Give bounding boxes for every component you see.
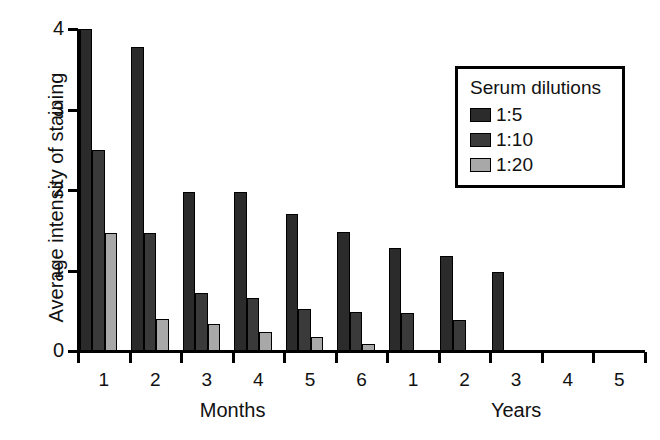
legend-item: 1:10 (470, 127, 612, 152)
x-axis-tick (283, 352, 286, 363)
bar (183, 192, 196, 351)
x-axis-tick (180, 352, 183, 363)
bar (492, 272, 505, 351)
legend-items: 1:51:101:20 (470, 102, 612, 177)
bar (259, 332, 272, 351)
legend-item-label: 1:10 (496, 129, 533, 151)
legend: Serum dilutions 1:51:101:20 (455, 66, 625, 188)
x-axis-tick (129, 352, 132, 363)
x-axis-tick-label: 1 (393, 369, 433, 391)
x-axis-tick (438, 352, 441, 363)
bar (389, 248, 402, 351)
bar (453, 320, 466, 351)
bar (298, 309, 311, 351)
x-axis-tick-label: 5 (599, 369, 639, 391)
legend-item-label: 1:5 (496, 104, 522, 126)
legend-swatch (470, 133, 491, 147)
bar (350, 312, 363, 351)
legend-swatch (470, 158, 491, 172)
legend-item: 1:20 (470, 152, 612, 177)
x-axis-tick-label: 2 (445, 369, 485, 391)
x-axis-group-caption-years: Years (416, 398, 616, 422)
legend-title: Serum dilutions (470, 75, 612, 101)
x-axis-tick-label: 6 (342, 369, 382, 391)
x-axis-tick (386, 352, 389, 363)
bar (105, 233, 118, 351)
x-axis-tick (77, 352, 80, 363)
legend-item: 1:5 (470, 102, 612, 127)
bar (80, 29, 93, 351)
bar (362, 344, 375, 351)
bar (440, 256, 453, 351)
x-axis-tick-label: 4 (548, 369, 588, 391)
x-axis-tick-label: 5 (290, 369, 330, 391)
x-axis-tick (489, 352, 492, 363)
legend-swatch (470, 108, 491, 122)
bar (401, 313, 414, 351)
x-axis-tick-label: 3 (496, 369, 536, 391)
bar (234, 192, 247, 351)
bar-chart: Average intensity of staining 01234 1234… (0, 0, 660, 440)
x-axis-tick-label: 4 (238, 369, 278, 391)
bar (195, 293, 208, 351)
bar (92, 150, 105, 351)
legend-item-label: 1:20 (496, 154, 533, 176)
x-axis-tick-label: 2 (135, 369, 175, 391)
bar (337, 232, 350, 351)
x-axis-tick (592, 352, 595, 363)
x-axis-tick-label: 3 (187, 369, 227, 391)
bar (247, 298, 260, 351)
x-axis-tick (644, 352, 647, 363)
bar (208, 324, 221, 351)
x-axis-tick-label: 1 (84, 369, 124, 391)
bar (286, 214, 299, 351)
x-axis-tick (232, 352, 235, 363)
bar (156, 319, 169, 351)
x-axis-tick (541, 352, 544, 363)
bar (144, 233, 157, 351)
x-axis-group-caption-months: Months (133, 398, 333, 422)
bar (311, 337, 324, 351)
bar (131, 47, 144, 351)
x-axis-tick (335, 352, 338, 363)
